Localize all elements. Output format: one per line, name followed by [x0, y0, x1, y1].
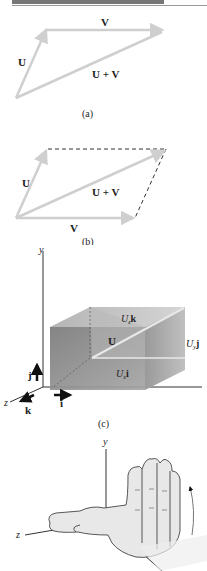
label-u-plus-v: U + V	[92, 186, 120, 198]
label-i: i	[60, 397, 63, 409]
axis-label-y: y	[102, 436, 108, 447]
figure-d: y z	[0, 435, 207, 571]
label-u: U	[18, 56, 26, 68]
label-ux-i: Uxi	[116, 368, 129, 380]
axis-label-z: z	[3, 397, 8, 408]
label-v: V	[101, 16, 109, 28]
vector-sum-arrow	[16, 32, 162, 98]
axis-label-y: y	[38, 245, 44, 255]
right-hand-illustration	[49, 459, 180, 558]
axis-label-z: z	[15, 529, 20, 540]
label-u-plus-v: U + V	[92, 68, 120, 80]
label-uy-j: Uyj	[186, 338, 199, 350]
figure-c: y z Uzk U Uyj Uxi j i k	[0, 245, 207, 420]
label-u: U	[108, 335, 116, 347]
label-u: U	[22, 177, 30, 189]
dashed-right-edge	[135, 149, 166, 218]
vector-u-arrow	[16, 151, 46, 218]
vector-sum-arrow	[16, 151, 164, 218]
rotation-arrow	[190, 487, 194, 535]
figure-b: U U + V V (b)	[0, 130, 207, 245]
label-j: j	[27, 369, 32, 381]
figure-a: V U U + V (a)	[0, 0, 207, 130]
caption-c: (c)	[98, 418, 109, 430]
label-v: V	[70, 222, 78, 234]
caption-b: (b)	[82, 236, 94, 245]
caption-c-wrap: (c)	[0, 415, 207, 435]
caption-a: (a)	[82, 108, 93, 120]
